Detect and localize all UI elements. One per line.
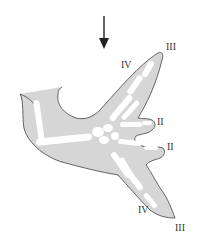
label-middle-digit-1: II (157, 117, 164, 127)
limb-illustration (0, 0, 200, 238)
label-middle-digit-2: II (167, 142, 174, 152)
label-upper-digit-side: IV (121, 60, 132, 70)
label-upper-digit-tip: III (166, 42, 176, 52)
label-lower-digit-side: IV (138, 205, 149, 215)
arrow-down-icon (99, 16, 109, 49)
label-lower-digit-tip: III (175, 223, 185, 233)
limb-diagram: III IV II II IV III (0, 0, 200, 238)
